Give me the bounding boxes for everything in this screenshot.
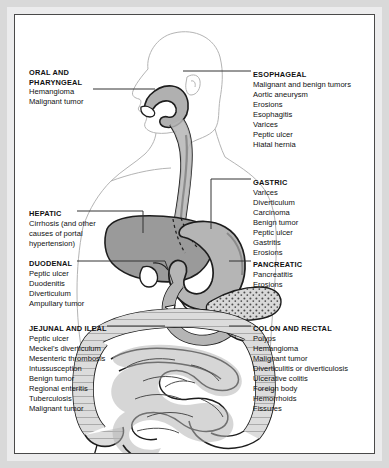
label-item: Varices	[253, 120, 351, 130]
label-heading-gastric: GASTRIC	[253, 178, 298, 188]
figure-inner-frame: ORAL AND PHARYNGEAL Hemangioma Malignant…	[14, 14, 375, 454]
label-item: Gastritis	[253, 238, 298, 248]
label-item: Ampullary tumor	[29, 299, 84, 309]
label-heading-pancreatic: PANCREATIC	[253, 260, 302, 270]
label-item: Peptic ulcer	[29, 269, 84, 279]
label-item: Intussusception	[29, 364, 107, 374]
label-block-oral-and-pharyngeal: ORAL AND PHARYNGEAL Hemangioma Malignant…	[29, 68, 83, 107]
label-item: Carcinoma	[253, 208, 298, 218]
label-item: Hemangioma	[253, 344, 348, 354]
label-heading-oral-line1: ORAL AND	[29, 68, 83, 78]
label-item: Tuberculosis	[29, 394, 107, 404]
label-heading-esophageal: ESOPHAGEAL	[253, 70, 351, 80]
label-item: Polyps	[253, 334, 348, 344]
label-item: Malignant tumor	[253, 354, 348, 364]
label-heading-oral-line2: PHARYNGEAL	[29, 78, 83, 88]
label-heading-hepatic: HEPATIC	[29, 209, 113, 219]
label-item: Hemorrhoids	[253, 394, 348, 404]
label-item: Diverticulitis or diverticulosis	[253, 364, 348, 374]
label-item: Aortic aneurysm	[253, 90, 351, 100]
label-item: Erosions	[253, 100, 351, 110]
label-block-pancreatic: PANCREATIC Pancreatitis Erosions	[253, 260, 302, 290]
label-item: Hemangioma	[29, 87, 83, 97]
label-item: Duodenitis	[29, 279, 84, 289]
small-intestine	[111, 345, 242, 454]
label-item: Malignant tumor	[29, 97, 83, 107]
label-item: Regional enteritis	[29, 384, 107, 394]
label-item: Malignant tumor	[29, 404, 107, 414]
label-item: Varices	[253, 188, 298, 198]
label-item: Peptic ulcer	[253, 130, 351, 140]
label-item: Foreign body	[253, 384, 348, 394]
label-block-duodenal: DUODENAL Peptic ulcer Duodenitis Diverti…	[29, 259, 84, 309]
label-block-esophageal: ESOPHAGEAL Malignant and benign tumors A…	[253, 70, 351, 150]
label-heading-duodenal: DUODENAL	[29, 259, 84, 269]
label-item: Erosions	[253, 280, 302, 290]
label-heading-jejunal: JEJUNAL AND ILEAL	[29, 324, 107, 334]
label-block-colon-and-rectal: COLON AND RECTAL Polyps Hemangioma Malig…	[253, 324, 348, 414]
label-block-jejunal-and-ileal: JEJUNAL AND ILEAL Peptic ulcer Meckel's …	[29, 324, 107, 414]
label-item: Erosions	[253, 248, 298, 258]
label-block-gastric: GASTRIC Varices Diverticulum Carcinoma B…	[253, 178, 298, 258]
label-item: Diverticulum	[253, 198, 298, 208]
label-item: Pancreatitis	[253, 270, 302, 280]
label-item: Peptic ulcer	[29, 334, 107, 344]
label-item: Mesenteric thrombosis	[29, 354, 107, 364]
label-item: Benign tumor	[29, 374, 107, 384]
label-item: Hiatal hernia	[253, 140, 351, 150]
label-item: Esophagitis	[253, 110, 351, 120]
label-item: Cirrhosis (and other causes of portal hy…	[29, 219, 113, 249]
label-item: Ulcerative colitis	[253, 374, 348, 384]
label-item: Benign tumor	[253, 218, 298, 228]
label-heading-colon: COLON AND RECTAL	[253, 324, 348, 334]
label-item: Malignant and benign tumors	[253, 80, 351, 90]
label-item: Meckel's diverticulum	[29, 344, 107, 354]
label-item: Diverticulum	[29, 289, 84, 299]
label-block-hepatic: HEPATIC Cirrhosis (and other causes of p…	[29, 209, 113, 249]
label-item: Fissures	[253, 404, 348, 414]
figure-root: ORAL AND PHARYNGEAL Hemangioma Malignant…	[0, 0, 389, 468]
label-item: Peptic ulcer	[253, 228, 298, 238]
